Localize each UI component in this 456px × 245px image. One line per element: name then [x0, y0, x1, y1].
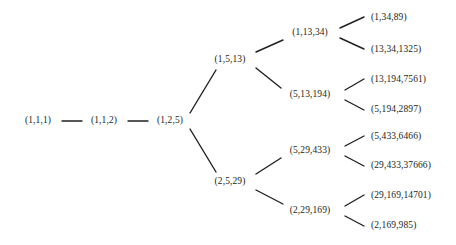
tree-edge	[256, 190, 283, 204]
tree-leaf-node: (13,34,1325)	[371, 45, 421, 55]
tree-node: (5,13,194)	[290, 90, 331, 100]
tree-edge	[190, 70, 216, 113]
tree-edge	[256, 68, 281, 88]
tree-leaf-node: (13,194,7561)	[371, 75, 426, 85]
tree-node: (1,2,5)	[157, 116, 183, 126]
tree-leaf-node: (5,433,6466)	[371, 132, 421, 142]
tree-edge	[190, 129, 216, 172]
tree-node: (1,1,1)	[25, 116, 51, 126]
tree-edge	[256, 158, 281, 174]
tree-edge-layer	[0, 0, 456, 245]
tree-edge	[256, 40, 283, 52]
tree-leaf-node: (29,433,37666)	[371, 161, 431, 171]
tree-edge	[345, 79, 364, 90]
tree-node: (2,29,169)	[290, 206, 331, 216]
tree-edge	[345, 136, 364, 146]
tree-edge	[345, 195, 364, 206]
tree-edge	[345, 216, 364, 226]
tree-edge	[340, 17, 364, 28]
tree-leaf-node: (29,169,14701)	[371, 191, 431, 201]
tree-diagram: (1,1,1)(1,1,2)(1,2,5)(1,5,13)(2,5,29)(1,…	[0, 0, 456, 245]
tree-edge	[340, 38, 364, 49]
tree-node: (1,1,2)	[91, 116, 117, 126]
tree-node: (1,13,34)	[292, 28, 328, 38]
tree-node: (1,5,13)	[215, 55, 246, 65]
tree-leaf-node: (1,34,89)	[371, 13, 407, 23]
tree-leaf-node: (2,169,985)	[371, 221, 416, 231]
tree-edge	[345, 156, 364, 166]
tree-leaf-node: (5,194,2897)	[371, 105, 421, 115]
tree-edge	[345, 100, 364, 110]
tree-node: (2,5,29)	[215, 177, 246, 187]
tree-node: (5,29,433)	[290, 146, 331, 156]
